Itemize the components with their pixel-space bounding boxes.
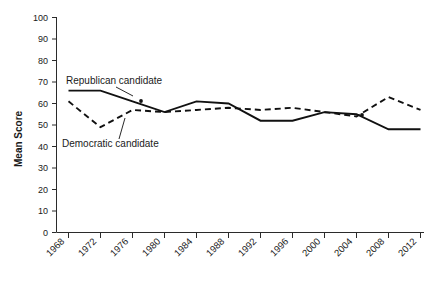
annotation-label-republican: Republican candidate xyxy=(66,75,163,86)
y-tick-label-90: 90 xyxy=(38,34,48,44)
y-tick-label-0: 0 xyxy=(43,228,48,238)
line-chart: 0 10 20 30 40 50 60 70 80 90 100 Mean Sc… xyxy=(0,0,441,281)
y-tick-label-100: 100 xyxy=(33,13,48,23)
y-tick-label-40: 40 xyxy=(38,142,48,152)
y-tick-label-70: 70 xyxy=(38,77,48,87)
annotation-label-democratic: Democratic candidate xyxy=(62,138,159,149)
y-tick-label-10: 10 xyxy=(38,206,48,216)
data-point-marker xyxy=(139,99,143,103)
data-point-marker xyxy=(360,113,364,117)
chart-svg: 0 10 20 30 40 50 60 70 80 90 100 Mean Sc… xyxy=(0,0,441,281)
y-tick-label-30: 30 xyxy=(38,163,48,173)
y-tick-label-60: 60 xyxy=(38,99,48,109)
y-tick-label-50: 50 xyxy=(38,120,48,130)
y-tick-label-80: 80 xyxy=(38,56,48,66)
y-tick-label-20: 20 xyxy=(38,185,48,195)
y-axis-title: Mean Score xyxy=(13,110,24,167)
